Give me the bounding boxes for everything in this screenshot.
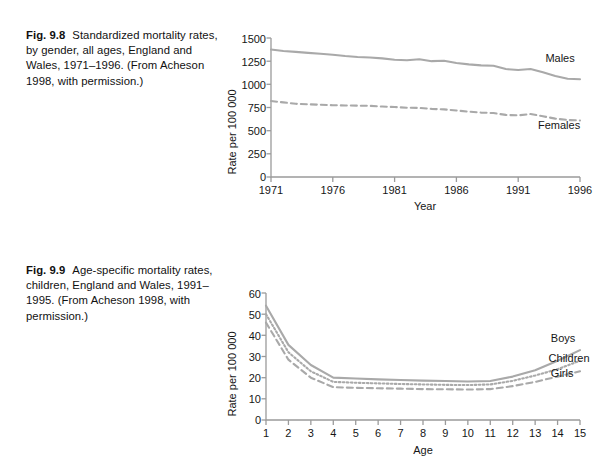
y-axis-title-9-9: Rate per 100 000 — [226, 331, 238, 416]
y-tick-label: 50 — [249, 309, 261, 321]
y-tick-label: 10 — [249, 393, 261, 405]
y-tick-label: 40 — [249, 330, 261, 342]
chart-standardized-mortality-rates: Rate per 100 000 1500 1250 1000 750 500 … — [225, 22, 605, 212]
x-tick-label: 4 — [330, 427, 336, 439]
x-ticks-9-9 — [266, 420, 580, 425]
x-tick-label: 8 — [420, 427, 426, 439]
figure-9-8-number: Fig. 9.8 — [26, 29, 65, 41]
axis-lines-9-9 — [266, 293, 580, 420]
figure-9-9-number: Fig. 9.9 — [26, 264, 65, 276]
y-tick-label: 1500 — [242, 33, 266, 45]
series-label-males: Males — [545, 52, 575, 64]
y-tick-label: 250 — [248, 148, 266, 160]
y-tick-label: 500 — [248, 125, 266, 137]
series-label-girls: Girls — [551, 367, 574, 379]
x-axis-title-9-8: Year — [414, 200, 437, 212]
x-tick-label: 12 — [507, 427, 519, 439]
x-tick-label: 7 — [398, 427, 404, 439]
y-tick-label: 20 — [249, 372, 261, 384]
x-tick-label: 1 — [263, 427, 269, 439]
series-label-boys: Boys — [551, 332, 576, 344]
series-line-girls — [266, 323, 580, 390]
figure-9-8-caption: Fig. 9.8Standardized mortality rates, by… — [26, 28, 222, 89]
x-tick-label: 1976 — [321, 184, 345, 196]
x-tick-label: 6 — [375, 427, 381, 439]
x-tick-label: 10 — [462, 427, 474, 439]
series-label-females: Females — [538, 119, 581, 131]
x-tick-label: 1996 — [568, 184, 592, 196]
x-tick-label: 5 — [353, 427, 359, 439]
x-tick-label: 11 — [485, 427, 496, 439]
y-tick-label: 0 — [260, 171, 266, 183]
chart-age-specific-mortality-rates: Rate per 100 000 60 50 40 30 20 10 0 — [225, 282, 605, 462]
chart-9-9-svg: Rate per 100 000 60 50 40 30 20 10 0 — [225, 282, 605, 462]
figure-9-9-caption: Fig. 9.9Age-specific mortality rates, ch… — [26, 263, 222, 324]
x-tick-label: 15 — [574, 427, 586, 439]
y-tick-label: 30 — [249, 351, 261, 363]
y-ticks-9-8 — [267, 38, 272, 177]
x-tick-label: 1991 — [506, 184, 530, 196]
x-ticks-9-8 — [271, 177, 580, 182]
x-tick-label: 2 — [285, 427, 291, 439]
x-tick-label: 13 — [529, 427, 541, 439]
x-tick-label: 14 — [551, 427, 563, 439]
series-line-boys — [266, 306, 580, 382]
y-tick-label: 0 — [255, 414, 261, 426]
series-line-females — [271, 101, 580, 120]
x-tick-label: 1986 — [444, 184, 468, 196]
y-axis-title-9-8: Rate per 100 000 — [226, 89, 238, 174]
y-ticks-9-9 — [262, 293, 267, 420]
y-tick-label: 60 — [249, 288, 261, 300]
series-label-children: Children — [549, 352, 590, 364]
y-tick-label: 750 — [248, 102, 266, 114]
x-tick-label: 3 — [308, 427, 314, 439]
x-axis-title-9-9: Age — [413, 444, 433, 456]
x-tick-label: 9 — [442, 427, 448, 439]
chart-9-8-svg: Rate per 100 000 1500 1250 1000 750 500 … — [225, 22, 605, 212]
series-line-males — [271, 50, 580, 80]
x-tick-label: 1981 — [382, 184, 406, 196]
series-line-children — [266, 314, 580, 385]
y-tick-label: 1250 — [242, 56, 266, 68]
y-tick-label: 1000 — [242, 79, 266, 91]
x-tick-label: 1971 — [259, 184, 283, 196]
x-tick-labels-9-9: 123456789101112131415 — [263, 427, 586, 439]
